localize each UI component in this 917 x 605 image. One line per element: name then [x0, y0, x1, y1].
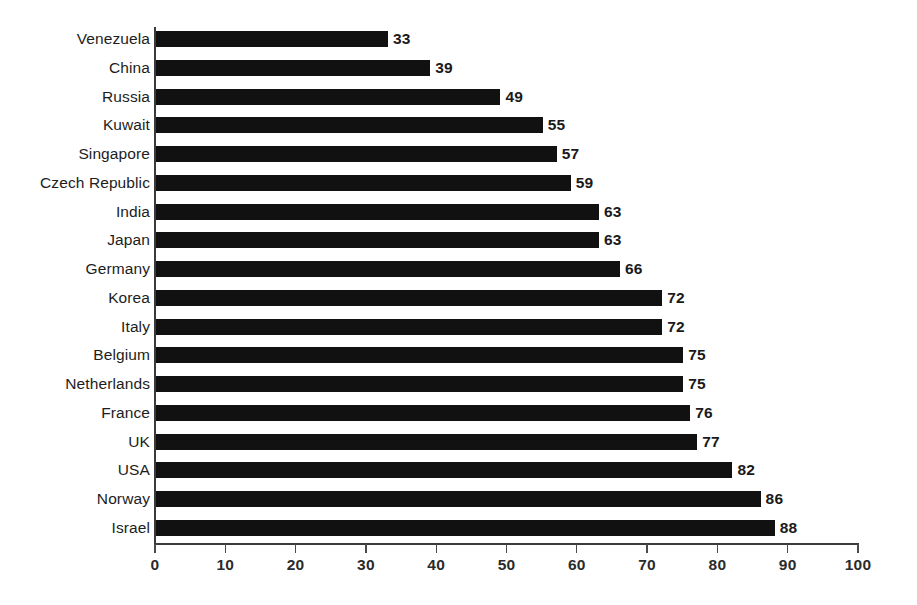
category-label: UK [0, 433, 150, 451]
category-label: Italy [0, 318, 150, 336]
bar-row: Italy72 [0, 319, 917, 348]
category-label: Venezuela [0, 30, 150, 48]
category-label: Germany [0, 260, 150, 278]
bar-row: Japan63 [0, 232, 917, 261]
bar [156, 319, 662, 335]
bar-row: Czech Republic59 [0, 175, 917, 204]
x-axis-tick-label: 40 [406, 556, 466, 574]
category-label: USA [0, 461, 150, 479]
bar-row: India63 [0, 204, 917, 233]
bar-value-label: 72 [667, 318, 685, 336]
bar-value-label: 66 [625, 260, 643, 278]
x-axis-tick-label: 80 [687, 556, 747, 574]
bar-value-label: 77 [702, 433, 720, 451]
bar-row: UK77 [0, 434, 917, 463]
bar-value-label: 57 [562, 145, 580, 163]
bar-value-label: 63 [604, 231, 622, 249]
category-label: Czech Republic [0, 174, 150, 192]
bar-value-label: 49 [505, 88, 523, 106]
bar-value-label: 55 [548, 116, 566, 134]
bar-row: China39 [0, 60, 917, 89]
category-label: France [0, 404, 150, 422]
bar-row: France76 [0, 405, 917, 434]
bar [156, 175, 571, 191]
category-label: China [0, 59, 150, 77]
bar-row: Russia49 [0, 89, 917, 118]
bar [156, 60, 430, 76]
bar [156, 405, 690, 421]
bar-value-label: 82 [737, 461, 755, 479]
x-axis-tick-label: 0 [125, 556, 185, 574]
x-axis-tick-label: 50 [477, 556, 537, 574]
bar [156, 347, 683, 363]
bar-row: Netherlands75 [0, 376, 917, 405]
category-label: Israel [0, 519, 150, 537]
x-axis-tick-label: 30 [336, 556, 396, 574]
bar-row: Kuwait55 [0, 117, 917, 146]
bar-value-label: 88 [780, 519, 798, 537]
category-label: Russia [0, 88, 150, 106]
bar [156, 290, 662, 306]
bar-value-label: 63 [604, 203, 622, 221]
category-label: Korea [0, 289, 150, 307]
bar-row: Israel88 [0, 520, 917, 549]
bar-row: Norway86 [0, 491, 917, 520]
x-axis-tick-label: 90 [758, 556, 818, 574]
bar-value-label: 76 [695, 404, 713, 422]
bar-row: Singapore57 [0, 146, 917, 175]
x-axis-tick-label: 20 [266, 556, 326, 574]
bar-row: Venezuela33 [0, 31, 917, 60]
bar-value-label: 86 [766, 490, 784, 508]
x-axis-tick-label: 10 [195, 556, 255, 574]
category-label: Kuwait [0, 116, 150, 134]
bar-row: USA82 [0, 462, 917, 491]
bar [156, 117, 543, 133]
category-label: Belgium [0, 346, 150, 364]
category-label: Singapore [0, 145, 150, 163]
bar-row: Belgium75 [0, 347, 917, 376]
bar-value-label: 33 [393, 30, 411, 48]
bar-chart: 0102030405060708090100 Venezuela33China3… [0, 0, 917, 605]
bar [156, 434, 697, 450]
category-label: Norway [0, 490, 150, 508]
bar [156, 491, 761, 507]
bar-value-label: 39 [435, 59, 453, 77]
category-label: India [0, 203, 150, 221]
bar-row: Germany66 [0, 261, 917, 290]
x-axis-tick-label: 100 [828, 556, 888, 574]
category-label: Netherlands [0, 375, 150, 393]
bar [156, 520, 775, 536]
bar [156, 232, 599, 248]
bar-row: Korea72 [0, 290, 917, 319]
bar [156, 31, 388, 47]
bar [156, 146, 557, 162]
bar [156, 204, 599, 220]
x-axis-tick-label: 70 [617, 556, 677, 574]
bar [156, 261, 620, 277]
bar-value-label: 59 [576, 174, 594, 192]
x-axis-tick-label: 60 [547, 556, 607, 574]
bar-value-label: 75 [688, 346, 706, 364]
bar [156, 89, 500, 105]
bar [156, 376, 683, 392]
bar [156, 462, 732, 478]
bar-value-label: 75 [688, 375, 706, 393]
category-label: Japan [0, 231, 150, 249]
bar-value-label: 72 [667, 289, 685, 307]
